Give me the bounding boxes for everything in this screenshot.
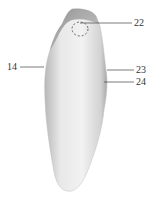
callout-label-23: 23 — [136, 65, 146, 75]
tooth-illustration — [0, 0, 149, 201]
callout-label-22: 22 — [134, 18, 144, 28]
tooth-diagram: 22 14 23 24 — [0, 0, 149, 201]
callout-label-24: 24 — [136, 77, 146, 87]
callout-label-14: 14 — [7, 62, 17, 72]
tooth-body — [45, 9, 107, 192]
